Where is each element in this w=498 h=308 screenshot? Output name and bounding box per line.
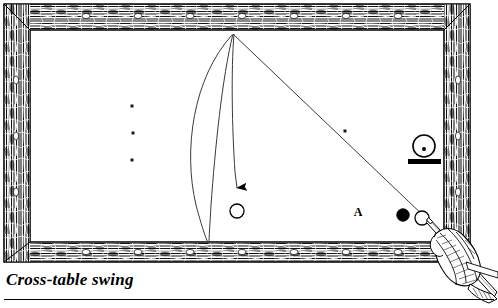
object-ball-target [230,204,244,218]
point-label-a: A [354,205,363,219]
english-indicator-bar [408,159,441,164]
table-spot-middle [132,132,135,135]
figure-caption-text: Cross-table swing [6,270,134,290]
english-indicator-circle [413,135,435,157]
english-indicator-dot [422,147,426,151]
caption-divider [4,299,494,300]
table-spot-path [344,130,347,133]
object-ball-black [397,209,409,221]
table-spot-lower [131,159,134,162]
figure-caption-block: Cross-table swing [0,262,498,308]
table-spot-upper [131,105,134,108]
figure-page: A Cross-table swing [0,0,498,308]
